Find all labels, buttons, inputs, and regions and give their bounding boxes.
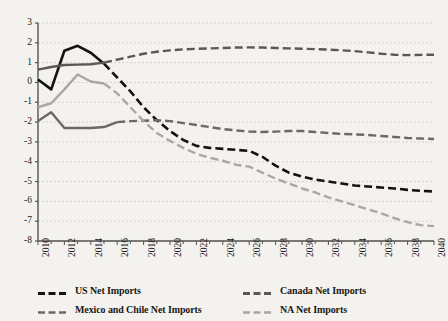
legend-item[interactable]: NA Net Imports <box>243 301 347 317</box>
legend-swatch-icon <box>243 304 273 315</box>
x-tick-label: 2010 <box>42 238 52 257</box>
x-tick-label: 2038 <box>412 238 422 257</box>
legend-label: Canada Net Imports <box>280 285 366 296</box>
y-tick-label: 0 <box>6 78 32 88</box>
x-tick-label: 2012 <box>68 238 78 257</box>
x-tick-label: 2030 <box>306 238 316 257</box>
x-tick-label: 2022 <box>200 238 210 257</box>
legend-swatch-icon <box>243 285 273 296</box>
x-tick-label: 2018 <box>148 238 158 257</box>
y-tick-label: 3 <box>6 18 32 28</box>
x-tick-label: 2028 <box>280 238 290 257</box>
x-tick-label: 2016 <box>121 238 131 257</box>
series-line-2 <box>38 112 117 128</box>
data-series-group <box>38 46 434 226</box>
x-tick-label: 2034 <box>359 238 369 257</box>
x-tick-label: 2040 <box>438 238 448 257</box>
legend-swatch-icon <box>38 285 68 296</box>
y-tick-label: -5 <box>6 177 32 187</box>
series-line-1 <box>104 47 434 62</box>
x-tick-label: 2032 <box>332 238 342 257</box>
series-line-1 <box>38 63 104 70</box>
x-tick-label: 2020 <box>174 238 184 257</box>
series-line-2 <box>117 120 434 139</box>
legend-label: US Net Imports <box>75 285 141 296</box>
plot-area: 3210-1-2-3-4-5-6-7-8 <box>0 0 443 250</box>
x-tick-label: 2036 <box>385 238 395 257</box>
chart-canvas <box>0 0 443 250</box>
series-line-0 <box>104 64 434 192</box>
legend-label: NA Net Imports <box>280 304 347 315</box>
y-tick-label: -3 <box>6 137 32 147</box>
x-tick-label: 2024 <box>227 238 237 257</box>
x-axis-tick-labels: 2010201220142016201820202022202420262028… <box>0 238 443 280</box>
legend-item[interactable]: US Net Imports <box>38 282 141 298</box>
legend-item[interactable]: Canada Net Imports <box>243 282 366 298</box>
legend-label: Mexico and Chile Net Imports <box>75 304 202 315</box>
series-line-3 <box>104 83 434 226</box>
x-tick-label: 2014 <box>95 238 105 257</box>
gridlines <box>38 23 434 241</box>
y-tick-label: 2 <box>6 38 32 48</box>
y-tick-label: -4 <box>6 157 32 167</box>
legend-swatch-icon <box>38 304 68 315</box>
y-tick-label: -1 <box>6 98 32 108</box>
y-tick-label: -6 <box>6 197 32 207</box>
y-axis-tick-labels: 3210-1-2-3-4-5-6-7-8 <box>0 0 32 250</box>
legend-item[interactable]: Mexico and Chile Net Imports <box>38 301 202 317</box>
x-tick-label: 2026 <box>253 238 263 257</box>
y-tick-label: 1 <box>6 58 32 68</box>
y-tick-label: -7 <box>6 216 32 226</box>
y-tick-label: -2 <box>6 117 32 127</box>
chart-legend: US Net ImportsCanada Net ImportsMexico a… <box>0 280 443 321</box>
